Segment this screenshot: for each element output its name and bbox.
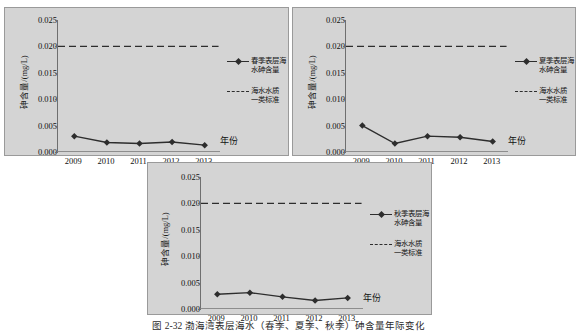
y-tick-mark <box>55 99 58 100</box>
y-tick-mark <box>343 46 346 47</box>
series-layer <box>346 20 509 152</box>
legend-label: 秋季表层海水砷含量 <box>394 209 429 228</box>
plot-area <box>200 177 363 309</box>
data-point-marker <box>136 140 143 147</box>
legend-label-line2: 一类标准 <box>394 248 422 257</box>
legend-item[interactable]: 夏季表层海水砷含量 <box>515 56 574 75</box>
legend-line-marker-icon <box>515 57 537 66</box>
legend-label-line1: 春季表层海 <box>251 56 286 65</box>
chart-panel-autumn: 砷含量/(mg/L) 0.0250.0200.0150.0100.0050.00… <box>147 162 432 315</box>
legend-label-line1: 海水水质 <box>539 86 567 95</box>
y-tick-labels: 0.0250.0200.0150.0100.0050.000 <box>23 8 57 155</box>
chart-panel-spring: 砷含量/(mg/L) 0.0250.0200.0150.0100.0050.00… <box>4 7 289 156</box>
y-tick-mark <box>198 256 201 257</box>
legend-label-line1: 海水水质 <box>251 86 279 95</box>
plot-wrapper: 砷含量/(mg/L) 0.0250.0200.0150.0100.0050.00… <box>5 8 288 155</box>
series-layer <box>58 20 221 152</box>
data-point-marker <box>279 294 286 301</box>
data-point-marker <box>424 133 431 140</box>
plot-area <box>57 20 220 152</box>
legend-item[interactable]: 春季表层海水砷含量 <box>227 56 286 75</box>
chart-legend: 夏季表层海水砷含量海水水质一类标准 <box>515 56 574 106</box>
y-tick-mark <box>55 152 58 153</box>
legend-label: 海水水质一类标准 <box>251 86 279 105</box>
legend-label-line2: 一类标准 <box>251 95 279 104</box>
data-point-marker <box>104 139 111 146</box>
plot-area <box>345 20 508 152</box>
legend-item[interactable]: 海水水质一类标准 <box>515 86 574 105</box>
y-tick-mark <box>198 203 201 204</box>
legend-label: 海水水质一类标准 <box>394 239 422 258</box>
legend-line-marker-icon <box>370 210 392 219</box>
legend-label: 海水水质一类标准 <box>539 86 567 105</box>
legend-item[interactable]: 海水水质一类标准 <box>370 239 429 258</box>
x-axis-title: 年份 <box>363 291 381 304</box>
y-tick-mark <box>198 177 201 178</box>
legend-label-line1: 秋季表层海 <box>394 209 429 218</box>
legend-spacer <box>515 77 574 86</box>
x-axis-title: 年份 <box>508 134 526 147</box>
chart-legend: 春季表层海水砷含量海水水质一类标准 <box>227 56 286 106</box>
x-axis-title: 年份 <box>220 134 238 147</box>
y-tick-mark <box>198 283 201 284</box>
legend-label-line2: 水砷含量 <box>539 65 574 74</box>
x-tick-label: 2011 <box>130 156 147 166</box>
y-tick-labels: 0.0250.0200.0150.0100.0050.000 <box>311 8 345 155</box>
x-tick-label: 2010 <box>97 156 114 166</box>
data-point-marker <box>457 134 464 141</box>
legend-item[interactable]: 海水水质一类标准 <box>227 86 286 105</box>
data-point-marker <box>201 142 208 149</box>
y-tick-mark <box>343 99 346 100</box>
chart-panel-summer: 砷含量/(mg/L) 0.0250.0200.0150.0100.0050.00… <box>292 7 576 156</box>
chart-legend: 秋季表层海水砷含量海水水质一类标准 <box>370 209 429 259</box>
legend-dashed-line-icon <box>370 240 392 249</box>
y-tick-mark <box>55 46 58 47</box>
plot-wrapper: 砷含量/(mg/L) 0.0250.0200.0150.0100.0050.00… <box>148 163 431 314</box>
x-tick-label: 2013 <box>483 156 500 166</box>
y-tick-mark <box>198 230 201 231</box>
data-point-marker <box>344 295 351 302</box>
data-point-marker <box>392 140 399 147</box>
y-tick-mark <box>343 20 346 21</box>
legend-label-line2: 水砷含量 <box>251 65 286 74</box>
data-point-marker <box>169 139 176 146</box>
legend-label-line1: 海水水质 <box>394 239 422 248</box>
y-tick-mark <box>55 20 58 21</box>
y-tick-mark <box>343 152 346 153</box>
data-point-marker <box>71 133 78 140</box>
y-tick-labels: 0.0250.0200.0150.0100.0050.000 <box>166 163 200 314</box>
x-tick-label: 2009 <box>65 156 82 166</box>
legend-dashed-line-icon <box>227 87 249 96</box>
y-tick-mark <box>343 126 346 127</box>
data-point-marker <box>214 291 221 298</box>
data-point-marker <box>359 122 366 129</box>
legend-label: 夏季表层海水砷含量 <box>539 56 574 75</box>
legend-spacer <box>227 77 286 86</box>
x-tick-label: 2012 <box>451 156 468 166</box>
y-tick-mark <box>55 73 58 74</box>
y-tick-mark <box>198 309 201 310</box>
figure-caption: 图 2-32 渤海湾表层海水（春季、夏季、秋季）砷含量年际变化 <box>0 318 577 332</box>
y-tick-mark <box>55 126 58 127</box>
legend-dashed-line-icon <box>515 87 537 96</box>
y-tick-mark <box>343 73 346 74</box>
plot-wrapper: 砷含量/(mg/L) 0.0250.0200.0150.0100.0050.00… <box>293 8 575 155</box>
legend-label-line2: 一类标准 <box>539 95 567 104</box>
legend-label: 春季表层海水砷含量 <box>251 56 286 75</box>
legend-label-line2: 水砷含量 <box>394 218 429 227</box>
series-layer <box>201 177 364 309</box>
legend-item[interactable]: 秋季表层海水砷含量 <box>370 209 429 228</box>
data-point-marker <box>312 297 319 304</box>
data-point-marker <box>247 289 254 296</box>
legend-spacer <box>370 230 429 239</box>
data-point-marker <box>489 138 496 145</box>
legend-label-line1: 夏季表层海 <box>539 56 574 65</box>
legend-line-marker-icon <box>227 57 249 66</box>
